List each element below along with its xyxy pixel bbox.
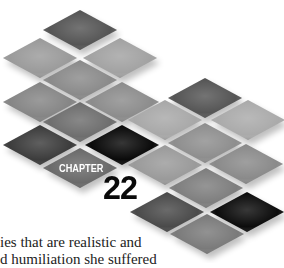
chapter-number: 22 (103, 170, 137, 204)
body-text-line: d humiliation she suffered (0, 251, 200, 268)
body-text-fragment: ies that are realistic and d humiliation… (0, 234, 200, 268)
chapter-label: CHAPTER (59, 163, 103, 174)
body-text-line: ies that are realistic and (0, 234, 200, 251)
